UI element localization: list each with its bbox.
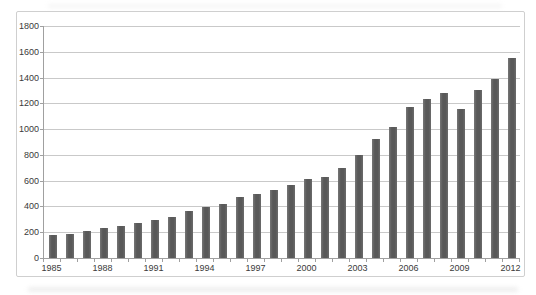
page-artifact-top [48,4,502,8]
x-axis-tick [145,259,146,262]
bar-1987 [83,231,91,258]
x-tick-label-2003: 2003 [347,263,367,273]
bar-2008 [440,93,448,258]
x-tick-label-2009: 2009 [449,263,469,273]
bar-1999 [287,185,295,258]
bar-2002 [338,168,346,258]
x-axis-tick [43,259,44,262]
y-tick-label-1600: 1600 [17,47,39,57]
x-tick-label-2000: 2000 [296,263,316,273]
y-tick-label-1200: 1200 [17,98,39,108]
bar-2003 [355,155,363,258]
gridline-800 [44,155,520,156]
x-tick-label-1991: 1991 [143,263,163,273]
gridline-1200 [44,103,520,104]
y-axis-tick [40,206,44,207]
bar-2009 [457,109,465,259]
x-axis-tick [434,259,435,262]
x-axis-tick [485,259,486,262]
x-tick-label-1994: 1994 [194,263,214,273]
bar-1991 [151,220,159,258]
x-tick-label-1997: 1997 [245,263,265,273]
x-axis-tick [349,259,350,262]
x-axis-tick [502,259,503,262]
x-axis-tick [247,259,248,262]
bar-1994 [202,207,210,258]
bar-1998 [270,190,278,258]
bar-1985 [49,235,57,258]
gridline-1400 [44,78,520,79]
plot-area [43,26,520,259]
gridline-400 [44,206,520,207]
bar-chart-frame: 0200400600800100012001400160018001985198… [16,11,525,277]
y-tick-label-0: 0 [17,253,39,263]
bar-1995 [219,204,227,258]
y-tick-label-1400: 1400 [17,73,39,83]
x-axis-tick [60,259,61,262]
x-axis-tick [417,259,418,262]
y-tick-label-200: 200 [17,227,39,237]
y-axis-tick [40,129,44,130]
x-tick-label-1985: 1985 [41,263,61,273]
x-axis-tick [468,259,469,262]
bar-1988 [100,228,108,258]
bar-1997 [253,194,261,258]
y-tick-label-600: 600 [17,176,39,186]
x-axis-tick [162,259,163,262]
y-tick-label-1000: 1000 [17,124,39,134]
x-axis-tick [315,259,316,262]
bar-2007 [423,99,431,258]
bar-1993 [185,211,193,258]
gridline-1600 [44,52,520,53]
page: 0200400600800100012001400160018001985198… [0,0,536,295]
x-axis-tick [128,259,129,262]
x-axis-tick [264,259,265,262]
x-axis-tick [383,259,384,262]
bar-2001 [321,177,329,258]
bar-2005 [389,127,397,258]
gridline-1000 [44,129,520,130]
bar-2010 [474,90,482,258]
x-axis-tick [451,259,452,262]
bar-2012 [508,58,516,258]
y-axis-tick [40,52,44,53]
bar-2000 [304,179,312,258]
x-axis-tick [332,259,333,262]
x-axis-tick [298,259,299,262]
bar-1996 [236,197,244,258]
bar-1989 [117,226,125,258]
x-axis-tick [281,259,282,262]
x-axis-tick [179,259,180,262]
bar-1990 [134,223,142,258]
y-axis-tick [40,26,44,27]
y-axis-tick [40,155,44,156]
y-axis-tick [40,181,44,182]
page-artifact-bottom [28,287,518,292]
x-tick-label-1988: 1988 [92,263,112,273]
x-axis-tick [111,259,112,262]
bar-1986 [66,234,74,258]
y-tick-label-800: 800 [17,150,39,160]
y-axis-tick [40,103,44,104]
x-axis-tick [94,259,95,262]
x-axis-tick [519,259,520,262]
bar-2004 [372,139,380,258]
x-axis-tick [213,259,214,262]
gridline-600 [44,181,520,182]
x-axis-tick [400,259,401,262]
y-tick-label-400: 400 [17,201,39,211]
x-axis-tick [77,259,78,262]
gridline-200 [44,232,520,233]
x-axis-tick [196,259,197,262]
x-axis-tick [366,259,367,262]
x-axis-tick [230,259,231,262]
bar-1992 [168,217,176,258]
y-tick-label-1800: 1800 [17,21,39,31]
gridline-1800 [44,26,520,27]
bar-2006 [406,107,414,258]
y-axis-tick [40,78,44,79]
x-tick-label-2012: 2012 [500,263,520,273]
x-tick-label-2006: 2006 [398,263,418,273]
bar-2011 [491,79,499,258]
y-axis-tick [40,232,44,233]
